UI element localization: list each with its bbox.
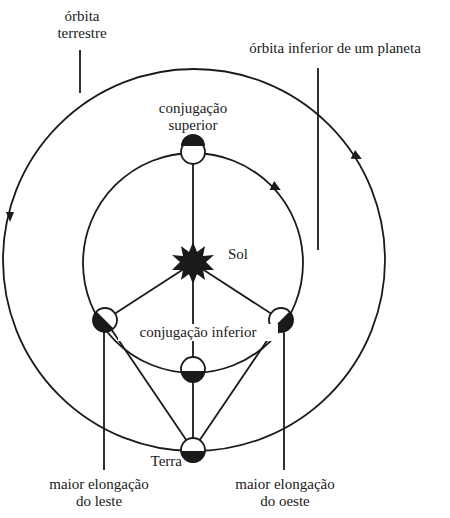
label-superior-conjunction: conjugação superior (143, 100, 243, 134)
sun-to-left-line (105, 263, 193, 320)
sun-to-right-line (193, 263, 281, 320)
label-earth-orbit: órbita terrestre (42, 8, 122, 42)
planet-east-elongation (93, 308, 117, 332)
label-east-elongation: maior elongação do leste (34, 476, 164, 510)
label-inferior-conjunction: conjugação inferior (118, 324, 278, 341)
sun-icon (172, 242, 214, 284)
planet-inferior-conjunction (181, 357, 205, 383)
orbit-diagram (0, 0, 450, 518)
label-west-elongation: maior elongação do oeste (220, 476, 350, 510)
label-earth: Terra (134, 453, 182, 470)
label-sun: Sol (228, 246, 268, 263)
label-inferior-orbit: órbita inferior de um planeta (220, 40, 450, 57)
earth-icon (181, 438, 205, 463)
planet-superior-conjunction (181, 134, 205, 164)
